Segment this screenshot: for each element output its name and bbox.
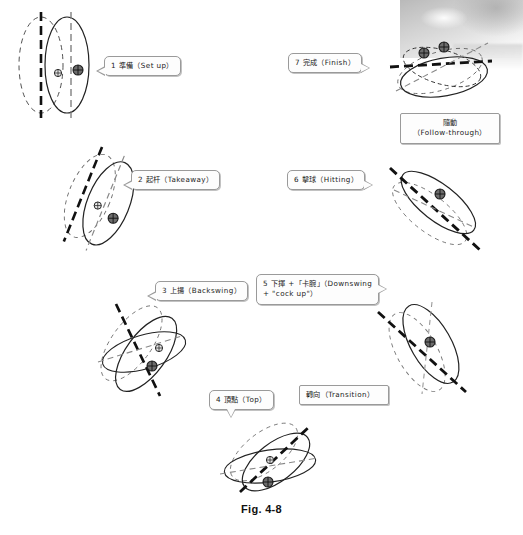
callout-top-label: 4 頂點（Top）	[216, 395, 267, 404]
figure-canvas: 1 準備（Set up） 2 起杆（Takeaway） 3 上揚（Backswi…	[0, 0, 523, 535]
callout-backswing-label: 3 上揚（Backswing）	[162, 286, 241, 295]
bubble-tail-icon	[123, 180, 132, 190]
bubble-tail-icon	[378, 284, 387, 294]
callout-top[interactable]: 4 頂點（Top）	[209, 390, 274, 410]
callout-follow-through-line1: 隨動	[407, 118, 493, 128]
bubble-tail-icon	[147, 291, 156, 301]
callout-hitting-label: 6 擊球（Hitting）	[294, 175, 358, 184]
bubble-tail-icon	[226, 409, 236, 418]
bubble-tail-icon	[364, 180, 373, 190]
callout-takeaway[interactable]: 2 起杆（Takeaway）	[131, 170, 220, 190]
pose-set-up	[19, 12, 89, 118]
pose-finish	[390, 39, 492, 103]
callout-downswing-line2: + "cock up"）	[263, 289, 372, 299]
callout-follow-through-line2: （Follow-through）	[407, 128, 493, 138]
pose-backswing	[89, 296, 190, 401]
callout-hitting[interactable]: 6 擊球（Hitting）	[287, 170, 365, 190]
pose-takeaway	[51, 142, 147, 260]
callout-follow-through[interactable]: 隨動 （Follow-through）	[400, 113, 500, 144]
callout-downswing-line1: 5 下揮 +「卡腕」（Downswing	[263, 279, 372, 289]
pose-downswing	[378, 296, 470, 400]
callout-downswing[interactable]: 5 下揮 +「卡腕」（Downswing + "cock up"）	[256, 274, 379, 305]
callout-finish-label: 7 完成（Finish）	[295, 58, 355, 67]
pose-top	[220, 412, 319, 501]
figure-caption: Fig. 4-8	[0, 503, 523, 515]
callout-backswing[interactable]: 3 上揚（Backswing）	[155, 281, 248, 301]
bubble-tail-icon	[361, 63, 370, 73]
swing-diagram-svg	[0, 0, 523, 535]
callout-set-up-label: 1 準備（Set up）	[111, 61, 174, 70]
callout-transition-label: 轉向（Transition）	[306, 390, 374, 399]
bubble-tail-icon	[96, 66, 105, 76]
callout-transition[interactable]: 轉向（Transition）	[299, 385, 389, 405]
callout-takeaway-label: 2 起杆（Takeaway）	[138, 175, 213, 184]
pose-hitting	[383, 161, 485, 256]
callout-finish[interactable]: 7 完成（Finish）	[288, 53, 362, 73]
callout-set-up[interactable]: 1 準備（Set up）	[104, 56, 181, 76]
